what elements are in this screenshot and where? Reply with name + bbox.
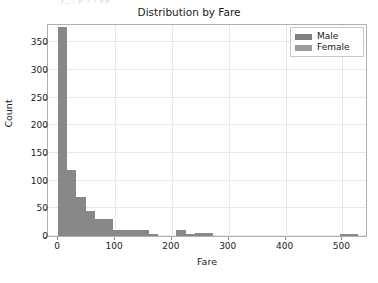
x-tick-mark <box>171 237 172 240</box>
x-tick-label: 400 <box>265 241 305 251</box>
y-tick-label: 250 <box>8 93 48 103</box>
histogram-bar <box>204 233 213 236</box>
histogram-bar <box>67 170 76 236</box>
histogram-bar <box>149 234 158 236</box>
gridline-vertical <box>115 25 116 236</box>
x-tick-mark <box>341 237 342 240</box>
gridline-vertical <box>286 25 287 236</box>
y-tick-label: 350 <box>8 37 48 47</box>
gridline-horizontal <box>48 124 366 125</box>
histogram-bar <box>186 234 195 236</box>
x-tick-label: 500 <box>321 241 361 251</box>
histogram-bar <box>122 230 131 236</box>
y-tick-label: 0 <box>8 231 48 241</box>
y-tick-label: 100 <box>8 176 48 186</box>
histogram-bar <box>104 219 113 236</box>
x-tick-mark <box>114 237 115 240</box>
x-tick-mark <box>57 237 58 240</box>
y-tick-label: 50 <box>8 203 48 213</box>
histogram-bar <box>113 230 122 236</box>
chart-figure: y_ , p ( ) pp Distribution by Fare 05010… <box>0 0 378 283</box>
histogram-bar <box>340 234 358 236</box>
gridline-vertical <box>172 25 173 236</box>
x-tick-label: 300 <box>208 241 248 251</box>
gridline-horizontal <box>48 207 366 208</box>
histogram-bar <box>176 230 185 236</box>
x-tick-label: 200 <box>151 241 191 251</box>
gridline-horizontal <box>48 152 366 153</box>
histogram-bar <box>86 211 95 236</box>
y-axis-label: Count <box>3 84 14 144</box>
chart-title: Distribution by Fare <box>0 6 378 18</box>
gridline-horizontal <box>48 69 366 70</box>
x-tick-mark <box>228 237 229 240</box>
legend-label: Female <box>317 42 350 53</box>
x-tick-label: 0 <box>37 241 77 251</box>
y-tick-label: 300 <box>8 65 48 75</box>
gridline-horizontal <box>48 97 366 98</box>
gridline-horizontal <box>48 180 366 181</box>
histogram-bar <box>140 230 149 236</box>
histogram-bar <box>131 230 140 236</box>
histogram-bar <box>58 27 67 236</box>
histogram-bar <box>76 197 85 236</box>
histogram-bar <box>95 219 104 236</box>
y-tick-label: 150 <box>8 148 48 158</box>
y-tick-label: 200 <box>8 120 48 130</box>
x-tick-label: 100 <box>94 241 134 251</box>
histogram-bar <box>195 233 204 236</box>
x-axis-label: Fare <box>47 256 367 267</box>
legend-swatch-icon <box>295 34 312 40</box>
x-tick-mark <box>285 237 286 240</box>
gridline-vertical <box>229 25 230 236</box>
legend-label: Male <box>317 31 338 42</box>
chart-legend: MaleFemale <box>290 27 364 57</box>
legend-swatch-icon <box>295 45 312 51</box>
legend-item-female: Female <box>295 42 359 53</box>
legend-item-male: Male <box>295 31 359 42</box>
